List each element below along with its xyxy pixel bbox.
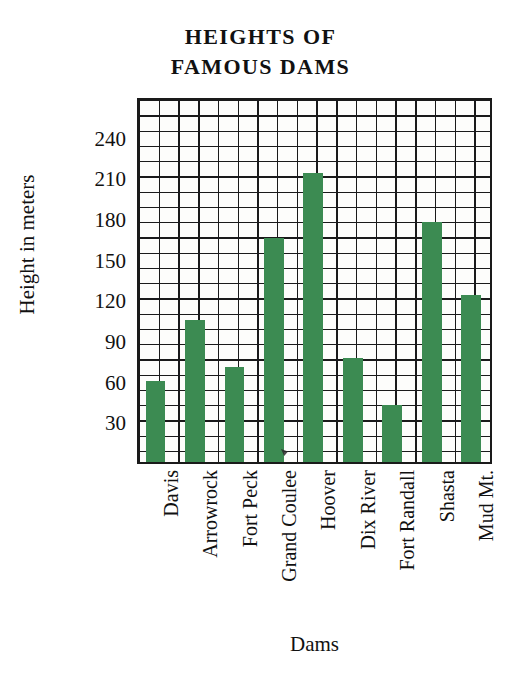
chart-title-line-1: HEIGHTS OF — [0, 22, 521, 52]
chart-title: HEIGHTS OF FAMOUS DAMS — [0, 22, 521, 82]
y-tick-label: 180 — [95, 210, 127, 231]
x-axis-tick-labels: DavisArrowrockFort PeckGrand CouleeHoove… — [137, 470, 492, 590]
y-tick-label: 150 — [95, 250, 127, 271]
bar — [185, 320, 205, 462]
x-tick-label: Arrowrock — [200, 470, 220, 558]
bar — [382, 405, 402, 462]
bar — [146, 381, 166, 462]
x-tick-label: Dix River — [358, 470, 378, 549]
y-tick-label: 210 — [95, 169, 127, 190]
plot-area — [137, 98, 492, 464]
bar — [264, 238, 284, 462]
x-tick-label: Shasta — [437, 470, 457, 522]
x-axis-title: Dams — [137, 632, 492, 657]
y-tick-label: 240 — [95, 128, 127, 149]
bar — [303, 173, 323, 462]
y-tick-label: 60 — [105, 372, 126, 393]
bars-layer — [139, 100, 490, 462]
x-tick-label: Fort Peck — [240, 470, 260, 547]
bar — [225, 367, 245, 462]
bar — [422, 222, 442, 462]
bar — [343, 358, 363, 462]
y-tick-label: 30 — [105, 413, 126, 434]
chart-title-line-2: FAMOUS DAMS — [0, 52, 521, 82]
bar — [461, 295, 481, 462]
x-tick-label: Hoover — [318, 470, 338, 530]
x-tick-label: Mud Mt. — [476, 470, 496, 541]
y-tick-label: 120 — [95, 291, 127, 312]
x-tick-label: Davis — [161, 470, 181, 517]
y-tick-label: 90 — [105, 332, 126, 353]
x-tick-label: Fort Randall — [397, 470, 417, 571]
y-axis-title: Height in meters — [15, 120, 40, 370]
x-tick-label: Grand Coulee — [279, 470, 299, 582]
